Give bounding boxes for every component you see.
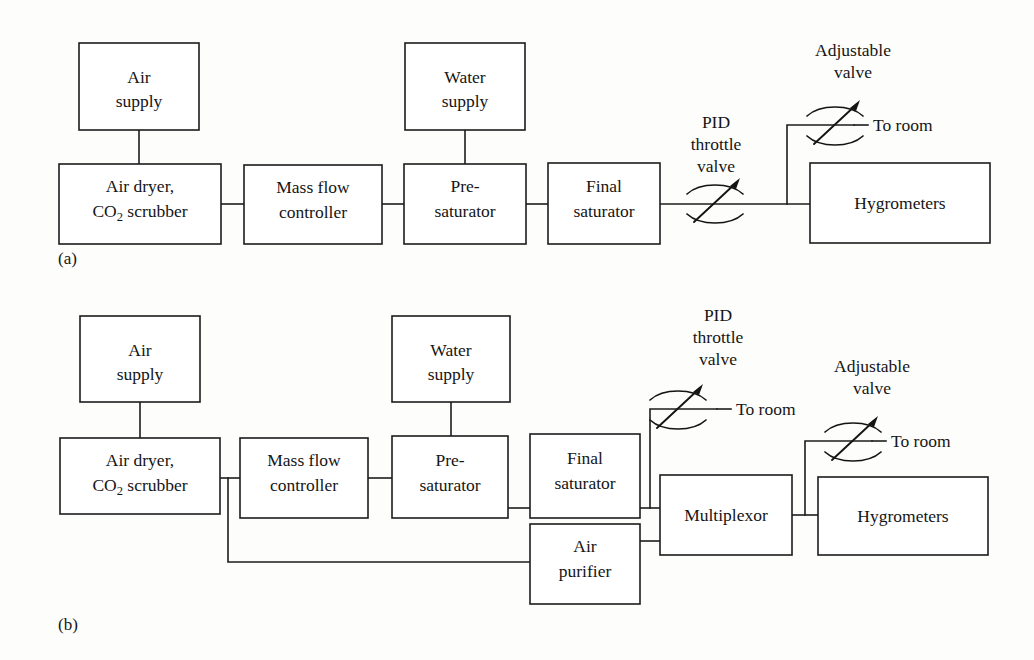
annot-adjustable-valve-a-line2: valve	[834, 62, 872, 82]
block-air-purifier-b-line1: Air	[573, 536, 597, 556]
pid-throttle-valve-icon-a	[687, 178, 743, 223]
block-presat-b-line2: saturator	[419, 475, 480, 495]
block-multiplexor-b-label: Multiplexor	[684, 505, 768, 525]
pid-throttle-valve-icon-b	[650, 384, 706, 429]
block-water-supply-b-line1: Water	[430, 340, 472, 360]
annot-pid-valve-a-line2: throttle	[691, 134, 742, 154]
block-hygrometers-b-label: Hygrometers	[857, 506, 949, 526]
block-presat-a-line2: saturator	[434, 201, 495, 221]
block-finalsat-b-line2: saturator	[554, 473, 615, 493]
panel-caption-a: (a)	[58, 249, 77, 268]
block-air-supply-a-line2: supply	[116, 91, 163, 111]
annot-pid-valve-a-line1: PID	[702, 112, 730, 132]
annot-pid-valve-a-line3: valve	[697, 156, 735, 176]
block-mass-flow-a-line1: Mass flow	[276, 177, 350, 197]
block-air-purifier-b-line2: purifier	[559, 561, 612, 581]
block-presat-b-line1: Pre-	[435, 450, 464, 470]
annot-adjustable-valve-b-line1: Adjustable	[834, 356, 910, 376]
block-air-supply-b-line2: supply	[117, 364, 164, 384]
block-water-supply-a-line1: Water	[444, 67, 486, 87]
block-finalsat-a-line1: Final	[586, 176, 622, 196]
block-finalsat-b-line1: Final	[567, 448, 603, 468]
adjustable-valve-icon-a	[807, 100, 863, 145]
figure-root: Air supply Air dryer, CO2 scrubber Mass …	[0, 0, 1034, 660]
block-air-dryer-b-line2: CO2 scrubber	[92, 475, 187, 498]
annot-to-room-a: To room	[873, 115, 933, 135]
block-air-dryer-b-line1: Air dryer,	[106, 450, 174, 470]
block-air-supply-b-line1: Air	[128, 340, 152, 360]
annot-to-room-b-pid: To room	[736, 399, 796, 419]
panel-caption-b: (b)	[58, 615, 78, 634]
adjustable-valve-icon-b	[825, 416, 881, 461]
annot-pid-valve-b-line2: throttle	[693, 327, 744, 347]
block-air-supply-a-line1: Air	[127, 67, 151, 87]
process-flow-diagram: Air supply Air dryer, CO2 scrubber Mass …	[0, 0, 1034, 660]
block-presat-a-line1: Pre-	[450, 176, 479, 196]
annot-adjustable-valve-a-line1: Adjustable	[815, 40, 891, 60]
block-hygrometers-a-label: Hygrometers	[854, 193, 946, 213]
annot-pid-valve-b-line3: valve	[699, 349, 737, 369]
block-air-dryer-a-line2: CO2 scrubber	[92, 201, 187, 224]
block-air-dryer-a-line1: Air dryer,	[106, 176, 174, 196]
block-water-supply-a-line2: supply	[442, 91, 489, 111]
annot-adjustable-valve-b-line2: valve	[853, 378, 891, 398]
annot-pid-valve-b-line1: PID	[704, 305, 732, 325]
block-mass-flow-b-line2: controller	[270, 475, 338, 495]
block-mass-flow-a-line2: controller	[279, 202, 347, 222]
annot-to-room-b-adjustable: To room	[891, 431, 951, 451]
block-mass-flow-b-line1: Mass flow	[267, 450, 341, 470]
block-water-supply-b-line2: supply	[428, 364, 475, 384]
block-finalsat-a-line2: saturator	[573, 201, 634, 221]
